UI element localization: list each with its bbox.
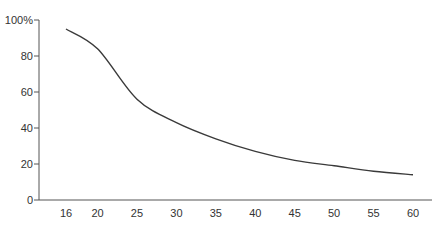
x-axis-ticks: 16202530354045505560 (60, 207, 419, 219)
x-tick-label: 50 (328, 207, 340, 219)
x-tick-label: 45 (289, 207, 301, 219)
x-tick-label: 30 (170, 207, 182, 219)
y-tick-label: 60 (21, 86, 33, 98)
y-tick-label: 80 (21, 50, 33, 62)
y-tick-label: 20 (21, 158, 33, 170)
x-tick-label: 20 (91, 207, 103, 219)
y-tick-label: 0 (27, 194, 33, 206)
y-axis-ticks: 020406080100% (5, 14, 39, 206)
x-tick-label: 25 (131, 207, 143, 219)
y-tick-label: 40 (21, 122, 33, 134)
x-tick-label: 55 (367, 207, 379, 219)
data-curve (66, 29, 413, 175)
x-tick-label: 60 (407, 207, 419, 219)
y-tick-label: 100% (5, 14, 33, 26)
x-tick-label: 40 (249, 207, 261, 219)
x-tick-label: 35 (210, 207, 222, 219)
line-chart: 020406080100% 16202530354045505560 (0, 0, 440, 225)
x-tick-label: 16 (60, 207, 72, 219)
